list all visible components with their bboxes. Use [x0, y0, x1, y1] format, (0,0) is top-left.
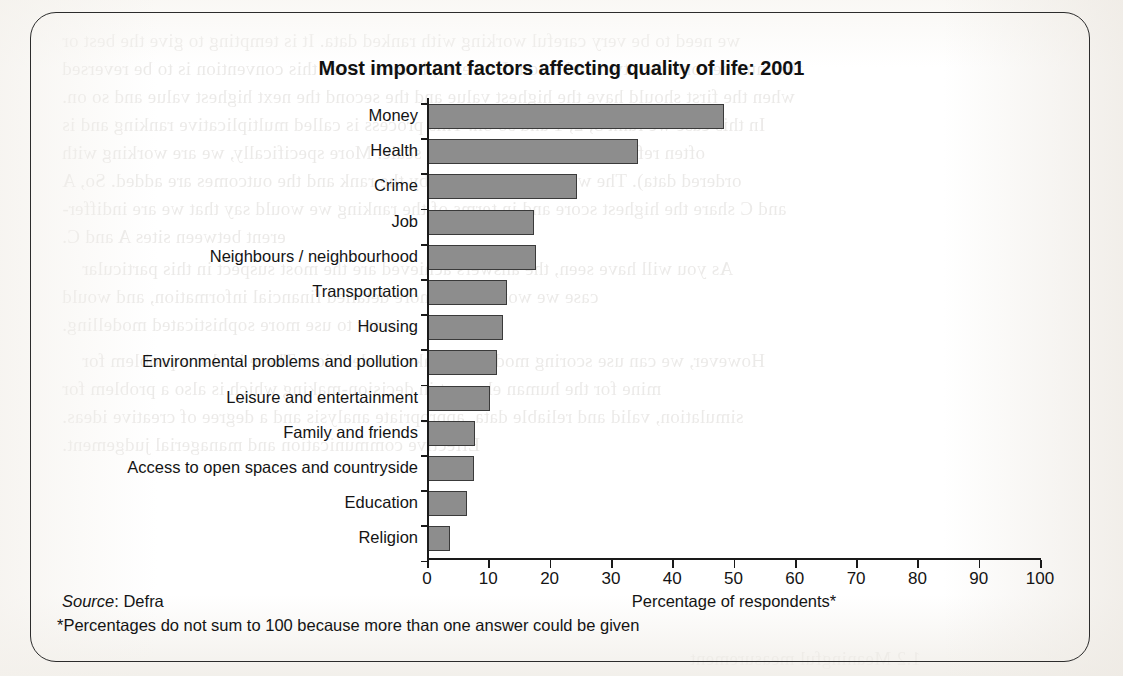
- category-label: Family and friends: [283, 422, 418, 442]
- x-axis-tick-label: 70: [847, 569, 866, 589]
- bar: [427, 315, 503, 340]
- y-axis-tick: [421, 279, 428, 281]
- category-label: Neighbours / neighbourhood: [210, 246, 418, 266]
- y-axis-tick: [421, 173, 428, 175]
- category-label: Environmental problems and pollution: [142, 351, 418, 371]
- x-axis-tick: [979, 560, 981, 568]
- x-axis-tick: [488, 560, 490, 568]
- bar-chart-figure: Most important factors affecting quality…: [0, 0, 1123, 676]
- bar: [427, 139, 638, 164]
- y-axis-tick: [421, 314, 428, 316]
- y-axis-tick: [421, 349, 428, 351]
- y-axis-tick: [421, 420, 428, 422]
- bar-row: Access to open spaces and countryside: [427, 451, 1040, 486]
- x-axis-tick-label: 60: [785, 569, 804, 589]
- bar-row: Money: [427, 99, 1040, 134]
- y-axis-tick: [421, 490, 428, 492]
- y-axis-tick: [421, 385, 428, 387]
- x-axis-title: Percentage of respondents*: [427, 592, 1041, 611]
- bar-row: Family and friends: [427, 416, 1040, 451]
- x-axis-tick-label: 20: [540, 569, 559, 589]
- bar-row: Crime: [427, 169, 1040, 204]
- source-note: Source: Defra: [62, 592, 164, 611]
- bar: [427, 280, 507, 305]
- y-axis-tick: [421, 138, 428, 140]
- bar: [427, 174, 577, 199]
- bar-row: Job: [427, 205, 1040, 240]
- x-axis-tick-label: 80: [908, 569, 927, 589]
- bar-row: Housing: [427, 310, 1040, 345]
- x-axis-tick: [795, 560, 797, 568]
- bar: [427, 104, 724, 129]
- bar: [427, 421, 475, 446]
- y-axis-tick: [421, 103, 428, 105]
- bar: [427, 210, 534, 235]
- x-axis-tick-label: 0: [422, 569, 431, 589]
- chart-footnote: *Percentages do not sum to 100 because m…: [57, 616, 639, 635]
- x-axis-tick: [550, 560, 552, 568]
- bar-row: Transportation: [427, 275, 1040, 310]
- category-label: Religion: [358, 527, 418, 547]
- category-label: Transportation: [312, 281, 418, 301]
- bar: [427, 456, 474, 481]
- bar: [427, 386, 490, 411]
- x-axis-tick: [856, 560, 858, 568]
- x-axis-tick-label: 30: [601, 569, 620, 589]
- bar-row: Education: [427, 486, 1040, 521]
- plot-area: MoneyHealthCrimeJobNeighbours / neighbou…: [427, 95, 1040, 558]
- y-axis-tick: [421, 244, 428, 246]
- x-axis-tick-label: 50: [724, 569, 743, 589]
- bar-row: Health: [427, 134, 1040, 169]
- x-axis-tick: [1040, 560, 1042, 568]
- category-label: Housing: [357, 316, 418, 336]
- x-axis-tick: [611, 560, 613, 568]
- y-axis-tick: [421, 455, 428, 457]
- x-axis-tick-label: 100: [1026, 569, 1054, 589]
- category-label: Money: [368, 105, 418, 125]
- y-axis-tick: [421, 209, 428, 211]
- source-value: : Defra: [114, 592, 164, 610]
- category-label: Job: [391, 211, 418, 231]
- bar: [427, 245, 536, 270]
- category-label: Access to open spaces and countryside: [127, 457, 418, 477]
- bar: [427, 491, 467, 516]
- x-axis-tick-label: 40: [663, 569, 682, 589]
- y-axis-line: [427, 98, 429, 559]
- x-axis-tick: [917, 560, 919, 568]
- category-label: Crime: [374, 175, 418, 195]
- y-axis-tick: [421, 525, 428, 527]
- bar-row: Neighbours / neighbourhood: [427, 240, 1040, 275]
- chart-title: Most important factors affecting quality…: [0, 57, 1123, 80]
- bar-row: Environmental problems and pollution: [427, 345, 1040, 380]
- x-axis-tick: [427, 560, 429, 568]
- bar-row: Leisure and entertainment: [427, 381, 1040, 416]
- x-axis-tick-label: 10: [479, 569, 498, 589]
- x-axis-line: 0102030405060708090100: [427, 558, 1041, 560]
- category-label: Health: [370, 140, 418, 160]
- category-label: Leisure and entertainment: [226, 387, 418, 407]
- x-axis-tick: [672, 560, 674, 568]
- bar: [427, 526, 450, 551]
- x-axis-tick: [734, 560, 736, 568]
- source-keyword: Source: [62, 592, 114, 610]
- category-label: Education: [345, 492, 418, 512]
- bar-row: Religion: [427, 521, 1040, 556]
- bar: [427, 350, 497, 375]
- x-axis-tick-label: 90: [969, 569, 988, 589]
